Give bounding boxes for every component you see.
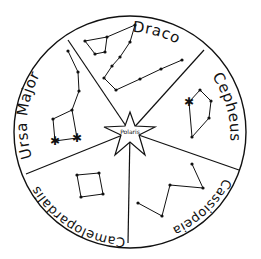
bright-star-icon: ✱	[184, 95, 194, 109]
star-dot-icon	[198, 88, 201, 91]
star-dot-icon	[201, 186, 204, 189]
label-camelopardalis: Camelopardalis	[28, 183, 126, 249]
constellation-ursa-major: ✱✱	[50, 49, 82, 148]
star-dot-icon	[159, 67, 162, 70]
constellation-line	[138, 164, 203, 216]
polaris-label: Polaris	[120, 128, 140, 135]
constellation-cepheus: ✱	[184, 88, 213, 138]
bright-star-icon: ✱	[72, 131, 82, 145]
star-dot-icon	[66, 49, 69, 52]
star-dot-icon	[79, 195, 82, 198]
star-dot-icon	[102, 76, 105, 79]
star-dot-icon	[209, 99, 212, 102]
star-dot-icon	[190, 162, 193, 165]
star-dot-icon	[105, 35, 108, 38]
star-dot-icon	[51, 117, 54, 120]
star-dot-icon	[76, 70, 79, 73]
label-draco: Draco	[132, 18, 183, 48]
star-dot-icon	[70, 108, 73, 111]
constellation-cassiopeia	[136, 162, 204, 217]
bright-star-icon: ✱	[50, 134, 60, 148]
constellation-line	[77, 173, 103, 197]
star-dot-icon	[180, 58, 183, 61]
star-dot-icon	[207, 116, 210, 119]
sector-divider-line	[68, 40, 130, 132]
sector-divider-line	[130, 50, 204, 132]
star-dot-icon	[110, 64, 113, 67]
constellation-camelopardalis	[75, 171, 104, 198]
star-dot-icon	[190, 135, 193, 138]
star-dot-icon	[83, 39, 86, 42]
constellation-wheel-diagram: ✱✱✱ Draco Cepheus Cassiopeia Cameloparda…	[0, 0, 261, 259]
sector-divider-line	[130, 132, 239, 170]
star-dot-icon	[75, 173, 78, 176]
star-dot-icon	[160, 214, 163, 217]
constellation-line	[53, 51, 79, 141]
star-dot-icon	[136, 201, 139, 204]
star-dot-icon	[128, 40, 131, 43]
star-dot-icon	[118, 55, 121, 58]
star-dot-icon	[103, 50, 106, 53]
star-dot-icon	[97, 171, 100, 174]
star-dot-icon	[168, 183, 171, 186]
star-dot-icon	[114, 88, 117, 91]
sector-divider-line	[128, 132, 130, 243]
star-dot-icon	[93, 52, 96, 55]
star-dot-icon	[77, 89, 80, 92]
label-cepheus: Cepheus	[209, 69, 245, 142]
label-ursa-major: Ursa Major	[13, 68, 44, 161]
star-dot-icon	[101, 192, 104, 195]
star-dot-icon	[138, 77, 141, 80]
